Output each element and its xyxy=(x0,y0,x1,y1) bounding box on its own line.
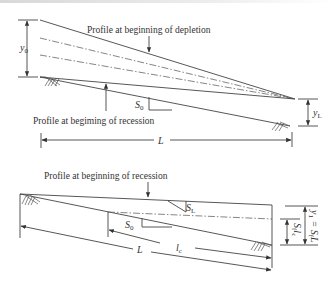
intermediate-profile-2 xyxy=(40,55,295,99)
s0-label-bottom: S0 xyxy=(125,219,134,232)
L-dimension-left-bottom xyxy=(21,226,133,249)
channel-bed-line-bottom xyxy=(20,194,272,245)
recession-profile-line xyxy=(40,77,295,99)
intermediate-profile-1 xyxy=(40,38,295,99)
ground-hatch-right-bottom xyxy=(251,242,272,251)
L-dimension-right-bottom xyxy=(151,252,271,270)
yL-label: yL xyxy=(312,107,322,120)
label-recession-bottom: Profile at beginning of recession xyxy=(44,171,168,181)
bottom-panel: Profile at beginning of recession SL S0 xyxy=(20,171,320,270)
L-label-bottom: L xyxy=(136,244,143,255)
label-recession-top: Profile at begiming of recession xyxy=(33,116,155,126)
slope-triangle-sl xyxy=(168,201,186,212)
lc-dimension-right xyxy=(195,248,271,258)
top-panel: y0 Profile at beginning of de xyxy=(18,20,322,148)
sflc-label: Sflc xyxy=(290,223,303,236)
y1-label: y1 = SfL xyxy=(307,209,320,243)
L-label-top: L xyxy=(157,135,164,146)
label-depletion: Profile at beginning of depletion xyxy=(87,25,211,35)
depletion-recession-diagram: y0 Profile at beginning of de xyxy=(0,0,335,293)
water-surface-line xyxy=(20,194,272,205)
sL-label: SL xyxy=(186,202,195,215)
lc-label: lc xyxy=(176,242,182,255)
lc-dimension-left xyxy=(109,230,160,243)
reference-dashdot-line xyxy=(108,212,272,219)
s0-label-top: S0 xyxy=(135,99,144,112)
